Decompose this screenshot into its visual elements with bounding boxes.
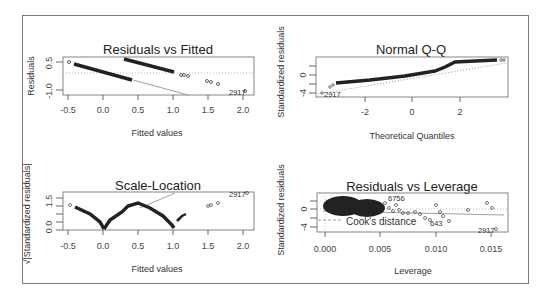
x-tick: 2.0 [237, 241, 250, 251]
x-tick: 0 [409, 107, 414, 117]
panel-scale-location: Scale-Location 2917 -0.5 0.0 0.5 1.0 1.5… [0, 150, 275, 305]
annotation: 2917 [324, 90, 341, 99]
annotation: 643 [430, 219, 443, 228]
x-axis-label: Theoretical Quantiles [369, 131, 455, 141]
y-tick: 1.5 [44, 195, 54, 208]
x-tick: 1.0 [167, 105, 180, 115]
x-tick: 0.0 [97, 105, 110, 115]
x-tick: 1.0 [167, 241, 180, 251]
x-axis-label: Fitted values [131, 264, 183, 274]
y-axis-label: Standardized residuals [276, 26, 286, 118]
cooks-distance-legend: Cook's distance [346, 216, 417, 227]
annotation: 2917 [229, 190, 246, 199]
chart-title: Scale-Location [115, 178, 201, 193]
panel-residuals-vs-leverage: Residuals vs Leverage 6756 643 2917 Cook… [275, 150, 549, 305]
chart-title: Normal Q-Q [376, 42, 446, 57]
y-tick: 0.0 [44, 221, 54, 234]
normal-qq-chart: Normal Q-Q 2917 -2 0 2 -4 0 Theoretical … [275, 0, 549, 150]
annotation: 2917 [478, 226, 495, 235]
x-tick: 0.015 [480, 244, 503, 254]
x-tick: 2.0 [237, 105, 250, 115]
x-tick: 0.5 [132, 241, 145, 251]
scale-location-chart: Scale-Location 2917 -0.5 0.0 0.5 1.0 1.5… [0, 150, 275, 305]
y-axis-label: √|Standardized residuals| [22, 163, 32, 264]
y-tick: -4 [298, 89, 308, 97]
x-tick: 0.0 [97, 241, 110, 251]
x-tick: 0.000 [314, 244, 337, 254]
x-tick: -2 [361, 107, 369, 117]
y-tick: 0 [298, 72, 308, 77]
y-tick: -1.0 [44, 83, 54, 99]
panel-residuals-vs-fitted: Residuals vs Fitted 2917 -0.5 0.0 0.5 1.… [0, 0, 275, 150]
x-axis-label: Fitted values [131, 128, 183, 138]
x-axis-label: Leverage [394, 266, 432, 276]
y-tick: 0.5 [44, 57, 54, 70]
y-tick: -4 [299, 223, 309, 231]
x-tick: 0.5 [132, 105, 145, 115]
chart-title: Residuals vs Fitted [103, 42, 213, 57]
x-tick: 1.5 [202, 241, 215, 251]
y-tick: 0 [299, 206, 309, 211]
x-tick: 1.5 [202, 105, 215, 115]
x-tick: -0.5 [60, 105, 76, 115]
x-tick: -0.5 [60, 241, 76, 251]
y-axis-label: Standardized residuals [276, 164, 286, 256]
y-axis-label: Residuals [26, 56, 36, 96]
residuals-vs-leverage-chart: Residuals vs Leverage 6756 643 2917 Cook… [275, 150, 549, 305]
panel-normal-qq: Normal Q-Q 2917 -2 0 2 -4 0 Theoretical … [275, 0, 549, 150]
x-tick: 0.010 [425, 244, 448, 254]
x-tick: 2 [457, 107, 462, 117]
residuals-vs-fitted-chart: Residuals vs Fitted 2917 -0.5 0.0 0.5 1.… [0, 0, 275, 150]
annotation: 6756 [388, 194, 405, 203]
chart-title: Residuals vs Leverage [346, 179, 478, 194]
x-tick: 0.005 [369, 244, 392, 254]
